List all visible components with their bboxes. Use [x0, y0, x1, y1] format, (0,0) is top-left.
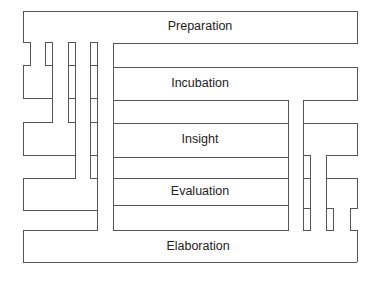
label-elaboration: Elaboration: [166, 239, 229, 253]
right-connector-block: [303, 123, 357, 262]
label-incubation: Incubation: [171, 76, 229, 90]
label-preparation: Preparation: [168, 19, 233, 33]
left-connector-2: [23, 42, 97, 210]
inner-stack-block: [113, 100, 288, 230]
central-trunk: [97, 43, 113, 230]
creative-process-diagram: Preparation Incubation Insight Evaluatio…: [0, 0, 376, 282]
left-connector-3: [23, 42, 357, 262]
label-evaluation: Evaluation: [171, 184, 229, 198]
incubation-block: [113, 67, 357, 230]
label-insight: Insight: [182, 132, 219, 146]
